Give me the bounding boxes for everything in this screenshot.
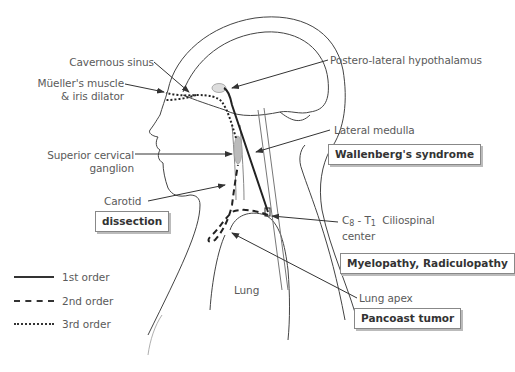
legend-first-order: 1st order [14, 271, 110, 283]
label-carotid: Carotid [104, 195, 141, 208]
box-pancoast-tumor: Pancoast tumor [354, 308, 461, 329]
label-postero-lateral-hypothalamus: Postero-lateral hypothalamus [330, 54, 482, 67]
label-superior-cervical-ganglion: Superior cervical ganglion [30, 149, 134, 175]
label-mueller-line2: & iris dilator [20, 90, 124, 103]
dashed-line-icon [14, 300, 54, 302]
label-superior-cervical-line1: Superior cervical [30, 149, 134, 162]
ciliospinal-line2: center [342, 230, 435, 243]
hypothalamus-shape [212, 84, 226, 93]
label-superior-cervical-line2: ganglion [30, 162, 134, 175]
label-lateral-medulla: Lateral medulla [334, 124, 415, 137]
box-myelopathy-radiculopathy: Myelopathy, Radiculopathy [340, 253, 515, 274]
label-mueller-muscle: Müeller's muscle & iris dilator [20, 77, 124, 103]
legend-third-order: 3rd order [14, 318, 111, 330]
dotted-line-icon [14, 323, 54, 325]
leader-lines [125, 60, 357, 298]
ciliospinal-rest: Ciliospinal [376, 214, 435, 226]
label-ciliospinal-center: C8 - T1 Ciliospinal center [342, 214, 435, 243]
label-cavernous-sinus: Cavernous sinus [66, 56, 154, 69]
box-dissection: dissection [95, 211, 169, 232]
solid-line-icon [14, 276, 54, 278]
label-mueller-line1: Müeller's muscle [20, 77, 124, 90]
box-wallenberg-syndrome: Wallenberg's syndrome [328, 144, 481, 165]
legend-label: 3rd order [62, 318, 111, 330]
label-lung-apex: Lung apex [359, 292, 413, 305]
label-lung: Lung [234, 284, 259, 297]
second-order-pathway [208, 165, 268, 242]
legend-label: 1st order [62, 271, 110, 283]
legend-label: 2nd order [62, 295, 113, 307]
ciliospinal-sep: - T [354, 214, 370, 226]
third-order-pathway [166, 93, 236, 138]
ganglion-shape [234, 136, 242, 164]
legend-second-order: 2nd order [14, 295, 113, 307]
